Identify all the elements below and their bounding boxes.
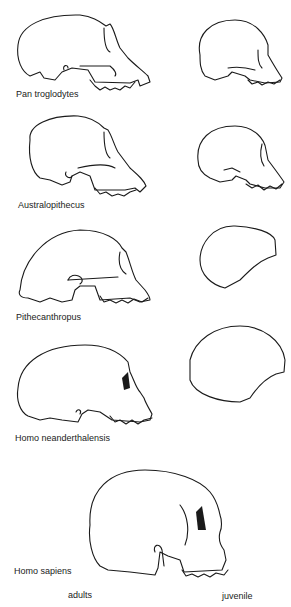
label-homo-sapiens: Homo sapiens: [14, 566, 72, 576]
label-pan-troglodytes: Pan troglodytes: [16, 89, 79, 99]
homo-sapiens-adult-skull: [89, 470, 228, 577]
australopithecus-adult-skull: [29, 116, 146, 196]
homo-neanderthalensis-adult-skull: [17, 345, 152, 424]
label-australopithecus: Australopithecus: [18, 200, 85, 210]
label-pithecanthropus: Pithecanthropus: [16, 312, 81, 322]
pithecanthropus-juvenile-braincase: [200, 226, 276, 288]
pan-troglodytes-adult-skull: [18, 15, 150, 90]
homo-neanderthalensis-juvenile-braincase: [190, 326, 285, 402]
pithecanthropus-adult-skull: [19, 230, 150, 303]
column-label-juvenile: juvenile: [222, 591, 253, 601]
australopithecus-juvenile-skull: [198, 126, 284, 190]
label-homo-neanderthalensis: Homo neanderthalensis: [15, 433, 110, 443]
pan-troglodytes-juvenile-skull: [199, 20, 282, 85]
column-label-adults: adults: [68, 590, 92, 600]
